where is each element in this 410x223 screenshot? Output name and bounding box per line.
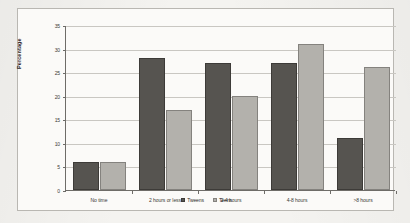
y-tick-label: 25 [44, 70, 60, 76]
bar-group [73, 25, 126, 190]
y-tick-mark [63, 144, 66, 145]
bar-tweens [337, 138, 363, 190]
bar-tweens [271, 63, 297, 190]
chart-figure-frame: Percentage 05101520253035 No time2 hours… [17, 8, 394, 211]
chart-legend: TweensTeens [18, 197, 395, 203]
bar-group [271, 25, 324, 190]
y-tick-mark [63, 120, 66, 121]
y-tick-label: 15 [44, 117, 60, 123]
y-tick-label: 20 [44, 94, 60, 100]
bar-tweens [73, 162, 99, 190]
y-tick-mark [63, 73, 66, 74]
x-tick-mark [198, 191, 199, 194]
y-tick-label: 5 [44, 164, 60, 170]
y-tick-label: 35 [44, 23, 60, 29]
x-tick-mark [264, 191, 265, 194]
bar-tweens [205, 63, 231, 190]
y-tick-mark [63, 26, 66, 27]
y-tick-label: 30 [44, 47, 60, 53]
bar-group [337, 25, 390, 190]
legend-swatch-icon [181, 198, 185, 202]
legend-label: Teens [219, 197, 232, 203]
x-tick-mark [330, 191, 331, 194]
bar-teens [298, 44, 324, 190]
legend-label: Tweens [187, 197, 204, 203]
x-tick-mark [132, 191, 133, 194]
bar-teens [166, 110, 192, 190]
y-tick-mark [63, 191, 66, 192]
y-axis-title: Percentage [16, 38, 22, 69]
bar-teens [232, 96, 258, 190]
legend-item-teens[interactable]: Teens [213, 197, 232, 203]
y-tick-mark [63, 167, 66, 168]
legend-item-tweens[interactable]: Tweens [181, 197, 204, 203]
y-tick-label: 10 [44, 141, 60, 147]
y-tick-label: 0 [44, 188, 60, 194]
bar-group [139, 25, 192, 190]
legend-swatch-icon [213, 198, 217, 202]
y-tick-mark [63, 50, 66, 51]
plot-area: 05101520253035 No time2 hours or less2-4… [65, 26, 395, 191]
bar-tweens [139, 58, 165, 190]
chart-screenshot: Percentage 05101520253035 No time2 hours… [0, 0, 410, 223]
x-tick-mark [396, 191, 397, 194]
bar-group [205, 25, 258, 190]
y-tick-mark [63, 97, 66, 98]
bar-teens [100, 162, 126, 190]
bar-teens [364, 67, 390, 190]
